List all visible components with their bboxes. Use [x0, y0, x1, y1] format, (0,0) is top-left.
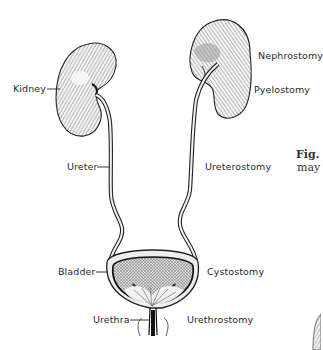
urethra [138, 308, 168, 336]
label-kidney: Kidney [13, 83, 46, 94]
label-urethrostomy: Urethrostomy [187, 314, 253, 325]
right-kidney [190, 20, 251, 118]
label-pyelostomy: Pyelostomy [254, 84, 310, 95]
label-ureter: Ureter [67, 161, 98, 172]
label-ureterostomy: Ureterostomy [205, 161, 271, 172]
left-kidney [56, 43, 116, 136]
partial-figure-edge [313, 314, 321, 350]
label-bladder: Bladder [58, 266, 96, 277]
caption-fragment-line1: Fig. [296, 149, 320, 161]
caption-fragment-line2: may [297, 162, 320, 174]
bladder [107, 250, 199, 308]
label-nephrostomy: Nephrostomy [258, 50, 323, 61]
label-cystostomy: Cystostomy [207, 266, 264, 277]
label-urethra: Urethra [93, 314, 130, 325]
